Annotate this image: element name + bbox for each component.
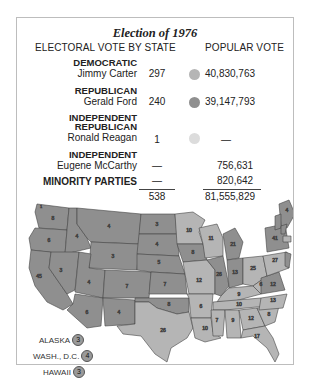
- inset-hawaii: HAWAII 3: [43, 366, 85, 378]
- electoral-total-rule: [139, 189, 175, 190]
- party-republican: REPUBLICAN: [75, 86, 137, 95]
- election-panel: Election of 1976 ELECTORAL VOTE BY STATE…: [16, 17, 294, 365]
- electoral-minority: —: [144, 175, 170, 186]
- svg-text:8: 8: [168, 301, 171, 307]
- svg-text:10: 10: [186, 227, 192, 233]
- svg-text:9: 9: [238, 291, 241, 297]
- electoral-header: ELECTORAL VOTE BY STATE: [35, 42, 176, 53]
- svg-text:7: 7: [216, 317, 219, 323]
- svg-text:17: 17: [254, 333, 260, 339]
- svg-text:4: 4: [286, 207, 289, 213]
- party-independent-republican-2: REPUBLICAN: [75, 122, 137, 131]
- svg-text:7: 7: [126, 283, 129, 289]
- inset-alaska-label: ALASKA: [39, 336, 70, 345]
- svg-text:7: 7: [164, 281, 167, 287]
- svg-text:4: 4: [76, 233, 79, 239]
- svg-text:26: 26: [216, 271, 222, 277]
- popular-reagan: —: [221, 134, 231, 145]
- candidate-mccarthy: Eugene McCarthy: [57, 160, 137, 171]
- party-democratic: DEMOCRATIC: [73, 58, 137, 67]
- inset-dc-label: WASH., D.C.: [33, 352, 79, 361]
- svg-text:13: 13: [232, 269, 238, 275]
- svg-text:41: 41: [272, 235, 278, 241]
- republican-color-dot: [189, 97, 200, 108]
- svg-text:26: 26: [160, 327, 166, 333]
- svg-text:13: 13: [270, 297, 276, 303]
- electoral-reagan: 1: [144, 134, 170, 145]
- inset-dc: WASH., D.C. 4: [33, 350, 93, 362]
- svg-text:25: 25: [250, 265, 256, 271]
- svg-text:11: 11: [208, 235, 213, 241]
- svg-text:4: 4: [118, 309, 121, 315]
- svg-text:12: 12: [248, 315, 254, 321]
- svg-text:6: 6: [86, 309, 89, 315]
- svg-text:4: 4: [88, 279, 91, 285]
- electoral-carter: 297: [144, 68, 170, 79]
- democratic-color-dot: [189, 69, 200, 80]
- svg-text:9: 9: [232, 317, 235, 323]
- svg-text:10: 10: [236, 301, 242, 307]
- svg-text:5: 5: [158, 259, 161, 265]
- inset-hawaii-label: HAWAII: [43, 368, 71, 377]
- svg-text:6: 6: [200, 303, 203, 309]
- inset-hawaii-badge: 3: [73, 366, 85, 378]
- svg-text:12: 12: [196, 277, 202, 283]
- svg-text:8: 8: [52, 215, 55, 221]
- candidate-ford: Gerald Ford: [84, 96, 137, 107]
- svg-text:27: 27: [272, 257, 278, 263]
- svg-text:3: 3: [112, 253, 115, 259]
- candidate-reagan: Ronald Reagan: [68, 132, 138, 143]
- popular-total-rule: [203, 189, 261, 190]
- electoral-mccarthy: —: [144, 160, 170, 171]
- inset-alaska: ALASKA 3: [39, 334, 84, 346]
- svg-text:45: 45: [36, 273, 42, 279]
- svg-text:12: 12: [270, 281, 276, 287]
- svg-text:6: 6: [48, 237, 51, 243]
- candidate-carter: Jimmy Carter: [78, 68, 137, 79]
- chart-title: Election of 1976: [17, 26, 293, 41]
- popular-header: POPULAR VOTE: [205, 42, 284, 53]
- electoral-ford: 240: [144, 96, 170, 107]
- popular-ford: 39,147,793: [205, 96, 255, 107]
- svg-text:3: 3: [156, 221, 159, 227]
- svg-text:4: 4: [108, 223, 111, 229]
- svg-text:8: 8: [192, 249, 195, 255]
- svg-text:4: 4: [156, 241, 159, 247]
- popular-carter: 40,830,763: [205, 68, 255, 79]
- svg-text:10: 10: [202, 325, 208, 331]
- svg-text:8: 8: [268, 311, 271, 317]
- party-independent: INDEPENDENT: [69, 150, 137, 159]
- party-minority: MINORITY PARTIES: [43, 177, 137, 186]
- popular-mccarthy: 756,631: [217, 160, 253, 171]
- inset-dc-badge: 4: [81, 350, 93, 362]
- svg-text:3: 3: [60, 267, 63, 273]
- popular-minority: 820,642: [217, 175, 253, 186]
- inset-alaska-badge: 3: [72, 334, 84, 346]
- svg-text:21: 21: [230, 241, 236, 247]
- svg-text:6: 6: [260, 281, 263, 287]
- independent-republican-color-dot: [189, 133, 200, 144]
